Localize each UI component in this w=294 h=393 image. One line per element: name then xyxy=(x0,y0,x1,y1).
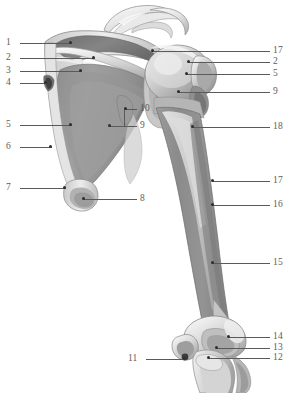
leader-dot-10 xyxy=(124,107,127,110)
leader-line-18 xyxy=(192,127,270,128)
label-number-14: 14 xyxy=(273,332,283,342)
leader-line-13 xyxy=(216,348,270,349)
label-number-9r: 9 xyxy=(273,87,278,97)
label-number-6: 6 xyxy=(6,142,11,152)
leader-dot-17b xyxy=(211,179,214,182)
leader-line-9c xyxy=(110,126,137,127)
label-number-18: 18 xyxy=(273,122,283,132)
leader-dot-8 xyxy=(82,197,85,200)
forearm-group xyxy=(193,350,251,393)
label-number-17b: 17 xyxy=(273,176,283,186)
leader-line-17b xyxy=(212,181,270,182)
label-number-2r: 2 xyxy=(273,57,278,67)
leader-dot-18 xyxy=(191,125,194,128)
leader-dot-7 xyxy=(63,186,66,189)
label-number-16: 16 xyxy=(273,200,283,210)
label-number-7: 7 xyxy=(6,183,11,193)
label-number-1: 1 xyxy=(6,38,11,48)
leader-dot-2r xyxy=(187,60,190,63)
leader-dot-1 xyxy=(69,41,72,44)
leader-dot-6 xyxy=(49,145,52,148)
leader-line-3 xyxy=(20,71,82,72)
leader-dot-2 xyxy=(92,56,95,59)
label-number-10: 10 xyxy=(140,104,150,114)
label-number-3: 3 xyxy=(6,66,11,76)
label-number-17a: 17 xyxy=(273,46,283,56)
label-number-12: 12 xyxy=(273,353,283,363)
leader-dot-11 xyxy=(183,357,186,360)
leader-line-10 xyxy=(126,109,137,110)
leader-line-14 xyxy=(228,337,270,338)
label-number-9c: 9 xyxy=(140,121,145,131)
leader-line-1 xyxy=(20,43,72,44)
leader-dot-13 xyxy=(215,346,218,349)
bracket-9-10 xyxy=(124,109,125,126)
leader-dot-5 xyxy=(69,123,72,126)
leader-dot-14 xyxy=(227,335,230,338)
leader-line-2 xyxy=(20,58,95,59)
label-number-8: 8 xyxy=(140,194,145,204)
label-number-11: 11 xyxy=(128,354,138,364)
leader-line-5 xyxy=(20,125,72,126)
leader-line-15 xyxy=(212,263,270,264)
leader-dot-15 xyxy=(211,261,214,264)
leader-line-4 xyxy=(20,83,47,84)
leader-line-11 xyxy=(146,359,186,360)
leader-dot-5r xyxy=(185,72,188,75)
leader-line-8 xyxy=(84,199,137,200)
label-number-2: 2 xyxy=(6,53,11,63)
label-number-4: 4 xyxy=(6,78,11,88)
leader-line-16 xyxy=(212,205,270,206)
label-number-15: 15 xyxy=(273,258,283,268)
leader-dot-16 xyxy=(211,203,214,206)
leader-line-5r xyxy=(186,74,270,75)
leader-line-2r xyxy=(188,62,270,63)
leader-dot-3 xyxy=(79,69,82,72)
leader-dot-9c xyxy=(108,124,111,127)
label-number-5r: 5 xyxy=(273,69,278,79)
leader-line-17a xyxy=(152,51,270,52)
leader-dot-4 xyxy=(44,81,47,84)
leader-line-7 xyxy=(20,188,66,189)
leader-dot-12 xyxy=(207,356,210,359)
label-number-5: 5 xyxy=(6,120,11,130)
leader-line-9r xyxy=(178,92,270,93)
leader-line-6 xyxy=(20,147,52,148)
leader-line-12 xyxy=(208,358,270,359)
leader-dot-17a xyxy=(151,49,154,52)
leader-dot-9r xyxy=(177,90,180,93)
anatomical-figure-plate: 12345671117259181716151413121098 xyxy=(0,0,294,393)
